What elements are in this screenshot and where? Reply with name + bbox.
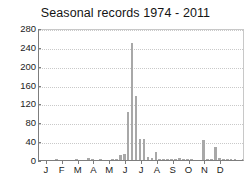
x-axis-tick-label: A [90,165,96,175]
bar [190,159,193,160]
bar [75,159,78,160]
chart-container: Seasonal records 1974 - 2011 04080120160… [0,0,251,188]
bar [115,159,118,160]
bar [162,159,165,160]
bar [55,159,58,160]
bar [151,158,154,160]
y-axis-tick-label: 0 [2,156,36,165]
x-axis-tick-mark [46,161,47,164]
y-axis-tick-label: 200 [2,62,36,71]
x-axis-tick-mark [62,161,63,164]
x-axis-tick-label: F [59,165,65,175]
bar [99,159,102,160]
bar [218,158,221,160]
y-axis-tick-label: 40 [2,137,36,146]
bar [147,157,150,160]
chart-title: Seasonal records 1974 - 2011 [0,6,251,20]
bar [127,112,130,160]
x-axis-tick-mark [141,161,142,164]
bar [170,159,173,160]
y-axis: 04080120160200240280 [0,29,36,161]
y-axis-tick-mark [38,67,41,68]
bar [222,159,225,160]
y-axis-tick-mark [38,142,41,143]
y-axis-tick-label: 120 [2,99,36,108]
bar [87,158,90,160]
x-axis-tick-mark [157,161,158,164]
x-axis-tick-label: A [154,165,160,175]
bar [111,159,114,160]
bar [143,139,146,160]
bar [214,147,217,160]
y-axis-tick-mark [38,86,41,87]
bar [210,159,213,160]
y-axis-tick-mark [38,161,41,162]
bar [135,96,138,160]
y-axis-tick-mark [38,123,41,124]
x-axis-tick-label: O [185,165,192,175]
x-axis-tick-label: M [105,165,113,175]
bar [174,159,177,160]
bar [234,159,237,160]
x-axis-tick-mark [173,161,174,164]
bar [123,154,126,160]
x-axis-tick-label: N [201,165,208,175]
bars-layer [39,30,243,160]
x-axis-tick-mark [204,161,205,164]
x-axis-tick-mark [93,161,94,164]
x-axis-tick-mark [125,161,126,164]
bar [182,159,185,160]
x-axis-tick-mark [109,161,110,164]
x-axis-tick-label: S [170,165,176,175]
plot-area [38,29,244,161]
bar [166,159,169,160]
y-axis-tick-mark [38,104,41,105]
bar [206,159,209,160]
y-axis-tick-mark [38,48,41,49]
x-axis-tick-mark [189,161,190,164]
y-axis-tick-label: 240 [2,43,36,52]
bar [186,159,189,160]
x-axis-tick-label: D [217,165,224,175]
y-axis-tick-mark [38,29,41,30]
y-axis-tick-label: 160 [2,81,36,90]
x-axis-tick-label: J [139,165,144,175]
bar [155,152,158,160]
x-axis-tick-label: M [74,165,82,175]
bar [226,159,229,160]
x-axis-tick-label: J [44,165,49,175]
bar [158,159,161,160]
y-axis-tick-label: 80 [2,118,36,127]
bar [119,155,122,160]
x-axis-tick-label: J [123,165,128,175]
x-axis-tick-mark [220,161,221,164]
x-axis-tick-mark [78,161,79,164]
bar [139,139,142,160]
bar [178,158,181,160]
bar [242,159,244,160]
bar [131,43,134,160]
bar [230,159,233,160]
y-axis-tick-label: 280 [2,24,36,33]
bar [202,140,205,160]
bar [91,159,94,160]
x-axis: JFMAMJJASOND [38,163,244,179]
